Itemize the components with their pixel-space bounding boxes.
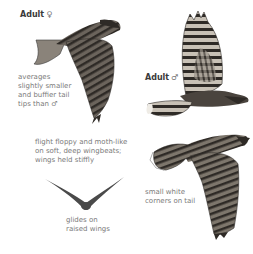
flight-note: flight floppy and moth-like on soft, dee… [35, 138, 127, 165]
flight-note-line: flight floppy and moth-like [35, 138, 127, 147]
glide-note-line: glides on [66, 216, 110, 225]
flight-note-line: wings held stiffly [35, 156, 127, 165]
female-nightjar-illustration [0, 0, 130, 130]
flight-note-line: on soft, deep wingbeats; [35, 147, 127, 156]
female-note: averages slightly smaller and buffier ta… [18, 73, 71, 109]
tail-note-line: small white [145, 188, 195, 197]
tail-corner-nightjar-illustration [140, 130, 253, 240]
female-note-line: and buffier tail [18, 91, 71, 100]
glide-note: glides on raised wings [66, 216, 110, 234]
female-note-line: tips than ♂ [18, 100, 71, 109]
tail-note: small white corners on tail [145, 188, 195, 206]
glide-note-line: raised wings [66, 225, 110, 234]
male-nightjar-illustration [130, 0, 253, 130]
female-note-line: averages [18, 73, 71, 82]
female-note-line: slightly smaller [18, 82, 71, 91]
glide-silhouette-illustration [40, 175, 130, 215]
tail-note-line: corners on tail [145, 197, 195, 206]
